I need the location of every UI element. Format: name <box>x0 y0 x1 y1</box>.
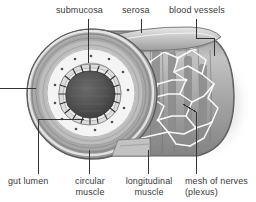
label-longitudinal-muscle: longitudinal muscle <box>119 176 179 197</box>
label-circular-muscle: circular muscle <box>66 176 114 197</box>
label-serosa: serosa <box>122 5 150 16</box>
figure-root: submucosa serosa blood vessels gut lumen… <box>0 0 256 202</box>
label-blood-vessels: blood vessels <box>169 5 225 16</box>
cut-wedge <box>112 138 150 156</box>
label-submucosa: submucosa <box>56 5 103 16</box>
label-gut-lumen: gut lumen <box>8 176 48 187</box>
label-mesh-of-nerves: mesh of nerves (plexus) <box>185 176 248 197</box>
gut-wall-illustration <box>0 0 256 202</box>
